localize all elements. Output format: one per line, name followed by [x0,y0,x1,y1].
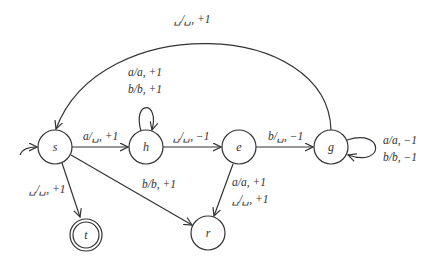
state-label-h: h [143,140,149,154]
state-t-accept: t [70,219,102,251]
state-r: r [191,216,225,250]
edge-label-g-loop-2: b/b, −1 [383,151,417,164]
edge-label-h-to-e: ␣/␣, −1 [173,130,209,143]
state-g: g [314,130,348,164]
state-label-s: s [53,140,58,154]
edge-e-to-r [214,164,233,216]
edge-label-s-to-h: a/␣, +1 [83,130,118,143]
state-e: e [222,130,256,164]
edge-g-to-s [56,44,331,130]
edge-label-s-to-t: ␣/␣, +1 [29,183,65,196]
state-label-e: e [236,140,242,154]
edge-label-h-loop-2: b/b, +1 [128,83,162,96]
state-diagram: ␣/␣, +1 a/a, +1 b/b, +1 a/␣, +1 ␣/␣, −1 … [0,0,433,271]
edge-g-loop [347,138,376,158]
edge-h-loop [139,108,153,131]
state-h: h [129,130,163,164]
edge-label-g-loop-1: a/a, −1 [383,134,417,147]
edge-s-to-r [71,155,192,225]
start-arrow [20,147,37,155]
edge-label-e-to-r-2: ␣/␣, +1 [232,193,268,206]
state-label-g: g [328,140,334,154]
state-label-r: r [206,226,211,240]
edge-label-h-loop-1: a/a, +1 [128,66,162,79]
edge-label-g-to-s: ␣/␣, +1 [174,13,210,26]
edge-label-e-to-r-1: a/a, +1 [232,176,266,189]
edge-label-e-to-g: b/␣, −1 [268,130,303,143]
state-s: s [38,130,72,164]
edge-label-s-to-r: b/b, +1 [142,178,176,191]
